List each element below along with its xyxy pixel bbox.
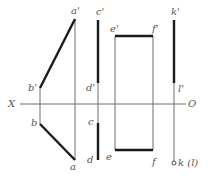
label-k-l: k (l)	[178, 158, 198, 168]
label-b: b	[31, 118, 37, 128]
label-b-prime: b'	[28, 83, 37, 93]
segment-ab-front	[40, 19, 75, 88]
label-k-prime: k'	[171, 7, 180, 17]
label-e-prime: e'	[110, 24, 119, 34]
label-a-prime: a'	[71, 6, 80, 16]
label-f-prime: f'	[152, 24, 158, 34]
label-d-prime: d'	[86, 83, 95, 93]
label-f: f	[152, 157, 156, 167]
label-c-prime: c'	[96, 7, 104, 17]
label-d: d	[87, 155, 93, 165]
axis-label-o: O	[188, 99, 196, 109]
axis-label-x: X	[8, 99, 15, 109]
label-a: a	[70, 162, 76, 172]
segment-ab-top	[40, 124, 75, 160]
point-kl-marker	[172, 161, 176, 165]
label-l-prime: l'	[178, 84, 184, 94]
label-c: c	[88, 117, 94, 127]
label-e: e	[106, 152, 112, 162]
